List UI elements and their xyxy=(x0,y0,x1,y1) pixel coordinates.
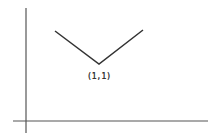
diagram-canvas: (1,1) xyxy=(0,0,223,137)
plot-svg xyxy=(0,0,223,137)
v-shaped-curve xyxy=(55,30,143,64)
vertex-label: (1,1) xyxy=(87,72,111,81)
